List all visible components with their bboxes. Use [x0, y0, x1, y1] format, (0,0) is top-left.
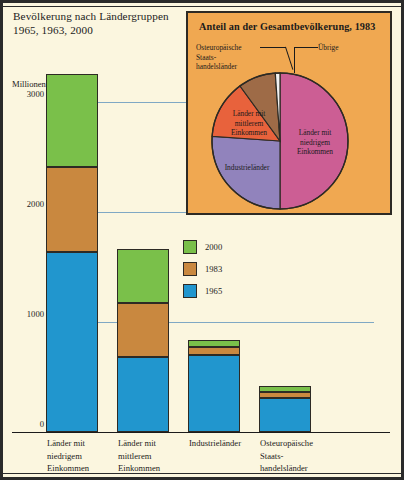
y-tick-label-0: 0 — [10, 419, 44, 429]
bar-group-1 — [117, 249, 169, 432]
pie-slice-industrielaender[interactable] — [212, 136, 280, 209]
legend-label-1983: 1983 — [205, 264, 222, 274]
pie-label-industrielaender: Industrieländer — [214, 163, 280, 173]
bar-group-0 — [46, 74, 98, 432]
category-label-1: Länder mit mittlerem Einkommen — [118, 437, 194, 475]
bar-segment-1983 — [117, 303, 169, 357]
pie-chart-title: Anteil an der Gesamtbevölkerung, 1983 — [199, 21, 375, 32]
axis-baseline — [12, 432, 390, 433]
legend-swatch-1983 — [183, 262, 197, 276]
legend-swatch-2000 — [183, 240, 197, 254]
category-label-2: Industrieländer — [189, 437, 265, 450]
y-tick-label-3000: 3000 — [10, 89, 44, 99]
leader-line-osteuropaeische-h — [260, 47, 286, 48]
bar-segment-2000 — [117, 249, 169, 303]
pie-label-laender-niedriges-einkommen: Länder mit niedrigem Einkommen — [286, 128, 344, 157]
y-axis-unit-label: Millionen — [12, 79, 46, 89]
pie-callout-uebrige: Übrige — [318, 43, 378, 53]
pie-label-laender-mittleres-einkommen: Länder mit mittlerem Einkommen — [218, 109, 280, 138]
pie-callout-osteuropaeische: Osteuropäische Staats- handelsländer — [196, 43, 266, 72]
figure-page: Bevölkerung nach Ländergruppen 1965, 196… — [0, 0, 404, 480]
bar-group-2 — [188, 340, 240, 432]
legend-label-2000: 2000 — [205, 242, 222, 252]
pie-inset-panel: Anteil an der Gesamtbevölkerung, 1983 Os… — [186, 11, 392, 215]
bar-group-3 — [259, 386, 311, 432]
leader-line-uebrige-v — [294, 47, 295, 73]
chart-legend: 2000 1983 1965 — [183, 237, 222, 303]
legend-item-1965: 1965 — [183, 281, 222, 300]
y-tick-label-1000: 1000 — [10, 309, 44, 319]
legend-label-1965: 1965 — [205, 286, 222, 296]
bar-segment-1983 — [46, 167, 98, 252]
category-label-3: Osteuropäische Staats- handelsländer — [260, 437, 336, 475]
legend-item-1983: 1983 — [183, 259, 222, 278]
legend-swatch-1965 — [183, 284, 197, 298]
bar-segment-1983 — [188, 347, 240, 355]
bar-segment-1965 — [46, 252, 98, 432]
pie-chart: Länder mit mittlerem Einkommen Industrie… — [210, 71, 350, 211]
bar-segment-2000 — [46, 74, 98, 167]
bar-segment-1965 — [259, 398, 311, 432]
category-label-0: Länder mit niedrigem Einkommen — [47, 437, 123, 475]
legend-item-2000: 2000 — [183, 237, 222, 256]
leader-line-uebrige-h — [294, 47, 318, 48]
bar-segment-1965 — [117, 357, 169, 432]
bar-segment-1965 — [188, 355, 240, 432]
bar-segment-2000 — [188, 340, 240, 347]
leader-line-osteuropaeische-d — [285, 47, 293, 70]
y-tick-label-2000: 2000 — [10, 199, 44, 209]
